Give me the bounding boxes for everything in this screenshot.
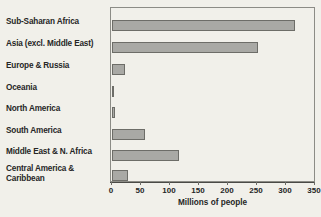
category-label-europe-russia: Europe & Russia	[6, 61, 108, 71]
x-axis-title: Millions of people	[110, 198, 315, 207]
x-axis-tick-label-250: 250	[249, 186, 262, 195]
x-axis-tick-label-350: 350	[307, 186, 320, 195]
category-label-middle-east-n-africa: Middle East & N. Africa	[6, 147, 108, 157]
category-label-asia: Asia (excl. Middle East)	[6, 39, 108, 49]
bar-middle-east-n-africa	[112, 150, 179, 161]
category-axis-labels: Sub-Saharan Africa Asia (excl. Middle Ea…	[0, 0, 108, 185]
bar-europe-russia	[112, 64, 125, 75]
bar-oceania	[112, 86, 114, 97]
chart-page: Sub-Saharan Africa Asia (excl. Middle Ea…	[0, 0, 321, 217]
x-axis-tick-150	[198, 182, 199, 185]
category-label-central-america-caribbean: Central America & Caribbean	[6, 164, 108, 183]
category-label-south-america: South America	[6, 126, 108, 136]
bar-south-america	[112, 129, 145, 140]
x-axis-tick-50	[140, 182, 141, 185]
x-axis-tick-label-50: 50	[136, 186, 145, 195]
x-axis-tick-100	[169, 182, 170, 185]
plot-area	[110, 7, 315, 182]
bar-sub-saharan-africa	[112, 20, 295, 31]
x-axis-tick-label-150: 150	[191, 186, 204, 195]
x-axis-tick-350	[314, 182, 315, 185]
x-axis-tick-label-100: 100	[162, 186, 175, 195]
category-label-oceania: Oceania	[6, 83, 108, 93]
bar-asia	[112, 42, 258, 53]
x-axis-tick-200	[227, 182, 228, 185]
x-axis-tick-label-0: 0	[109, 186, 113, 195]
bar-north-america	[112, 107, 115, 118]
x-axis-tick-0	[111, 182, 112, 185]
x-axis-tick-label-300: 300	[278, 186, 291, 195]
x-axis-tick-300	[285, 182, 286, 185]
x-axis-tick-label-200: 200	[220, 186, 233, 195]
x-axis: 050100150200250300350 Millions of people	[110, 182, 315, 217]
category-label-sub-saharan-africa: Sub-Saharan Africa	[6, 17, 108, 27]
bar-series	[111, 8, 314, 181]
x-axis-tick-250	[256, 182, 257, 185]
bar-central-america-caribbean	[112, 170, 128, 181]
category-label-north-america: North America	[6, 104, 108, 114]
